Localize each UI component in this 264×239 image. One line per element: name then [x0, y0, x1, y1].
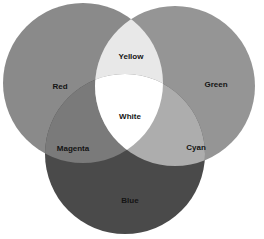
rgb-venn-diagram: Yellow Red Green White Magenta Cyan Blue	[0, 0, 264, 239]
label-red: Red	[52, 82, 67, 91]
label-green: Green	[204, 80, 227, 89]
label-magenta: Magenta	[57, 144, 90, 153]
label-white: White	[119, 112, 141, 121]
label-yellow: Yellow	[119, 52, 145, 61]
label-cyan: Cyan	[186, 143, 206, 152]
label-blue: Blue	[121, 196, 139, 205]
